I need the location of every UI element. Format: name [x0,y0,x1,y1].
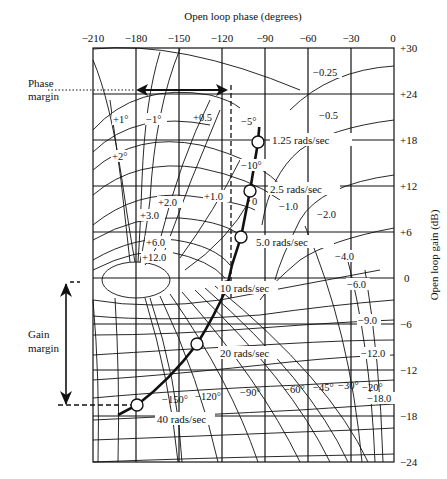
phase-label: −20° [362,382,383,393]
y-tick: −6 [400,318,412,330]
phase-label: −120° [195,391,221,402]
marker-20 [191,338,203,350]
y-tick-labels: +30 +24 +18 +12 +6 0 −6 −12 −18 −24 [400,42,418,468]
x-tick: 0 [390,32,396,44]
freq-label: 2.5 rads/sec [270,183,322,195]
phase-label: −90° [240,387,261,398]
contour-label: +6.0 [146,237,165,248]
gain-margin-annotation: Gain margin [28,282,132,405]
contour-label: −9.0 [358,315,377,326]
y-tick: 0 [404,272,410,284]
x-tick: −180 [125,32,148,44]
contour-label: −6.0 [347,279,366,290]
phase-label: +1° [113,114,128,125]
gain-margin-label: margin [28,342,59,354]
contour-label: −1.0 [279,201,298,212]
y-tick: −12 [400,364,417,376]
contour-label: +1.0 [204,191,223,202]
phase-label: −30° [338,380,359,391]
y-tick: +12 [400,180,417,192]
phase-label: −10° [241,160,262,171]
phase-margin-annotation: Phase margin [28,77,231,300]
freq-label: 1.25 rads/sec [272,134,330,146]
phase-label: +2° [112,151,127,162]
phase-label: −60° [284,384,305,395]
phase-label: −5° [241,116,256,127]
y-axis-title: Open loop gain (dB) [428,209,441,300]
x-tick: −120 [211,32,234,44]
x-axis-title: Open loop phase (degrees) [184,10,302,23]
freq-label: 40 rads/sec [157,413,206,425]
contour-label: −0.25 [313,67,337,78]
freq-label: 10 rads/sec [220,282,269,294]
freq-label: 5.0 rads/sec [256,236,308,248]
phase-margin-label: margin [28,90,59,102]
nichols-chart: Open loop phase (degrees) −210 −180 −150… [0,0,447,479]
marker-1-25 [252,136,264,148]
y-tick: +30 [400,42,418,54]
contour-label: +3.0 [140,210,159,221]
phase-label: −150° [162,394,188,405]
contour-label: −18.0 [367,393,391,404]
phase-label: −45° [313,382,334,393]
marker-5 [235,231,247,243]
contour-label: −0.5 [319,110,338,121]
y-tick: +18 [400,134,418,146]
marker-40 [131,399,143,411]
y-tick: +24 [400,88,418,100]
y-tick: +6 [400,226,412,238]
freq-label: 20 rads/sec [220,347,269,359]
x-tick: −90 [256,32,274,44]
contour-label: 0 [252,196,257,207]
contour-label: −12.0 [361,348,385,359]
contour-label: −2.0 [317,209,336,220]
x-tick: −210 [82,32,105,44]
contour-label: +2.0 [158,197,177,208]
x-tick: −150 [168,32,191,44]
y-tick: −18 [400,410,418,422]
x-tick: −30 [342,32,360,44]
x-tick-labels: −210 −180 −150 −120 −90 −60 −30 0 [82,32,397,44]
contour-label: −4.0 [335,251,354,262]
contour-label: +12.0 [142,252,166,263]
x-tick: −60 [299,32,317,44]
phase-margin-label: Phase [28,77,54,89]
phase-label: −1° [146,114,161,125]
contour-label: +0.5 [193,112,212,123]
gain-margin-label: Gain [28,328,50,340]
y-tick: −24 [400,456,418,468]
